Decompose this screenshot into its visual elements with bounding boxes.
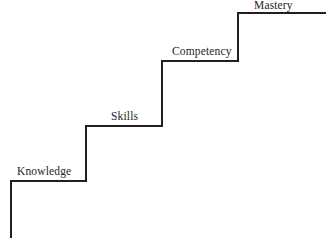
step-label-knowledge: Knowledge	[17, 166, 71, 178]
staircase-line-graphic	[0, 0, 326, 241]
step-label-skills: Skills	[111, 111, 138, 123]
diagram-canvas: Knowledge Skills Competency Mastery	[0, 0, 326, 241]
staircase-path	[11, 13, 326, 238]
step-label-competency: Competency	[172, 46, 232, 58]
step-label-mastery: Mastery	[254, 0, 293, 12]
